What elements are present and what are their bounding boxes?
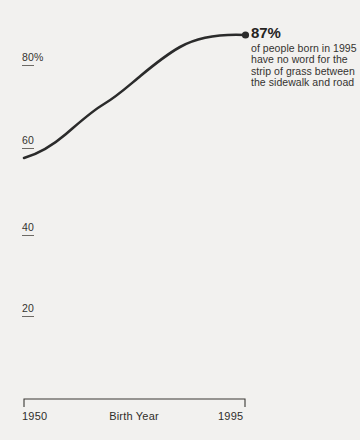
endpoint-dot — [242, 31, 249, 38]
y-axis-tick-20: 20 — [22, 303, 34, 317]
annotation-line-2: have no word for the — [251, 54, 359, 65]
x-axis-line — [24, 399, 245, 407]
y-axis-tick-40: 40 — [22, 222, 34, 236]
y-axis-tick-40-value: 40 — [22, 222, 34, 236]
annotation-callout: 87% of people born in 1995 have no word … — [251, 25, 359, 88]
chart-container: 80% 60 40 20 1950 Birth Year 1995 87% of… — [0, 0, 360, 440]
y-axis-tick-80-value: 80 — [22, 52, 34, 66]
y-axis-tick-60-value: 60 — [22, 135, 34, 149]
y-axis-tick-60: 60 — [22, 135, 34, 149]
y-axis-tick-20-value: 20 — [22, 303, 34, 317]
annotation-body: of people born in 1995 have no word for … — [251, 43, 359, 89]
series-line — [24, 35, 245, 158]
annotation-line-4: the sidewalk and road — [251, 77, 359, 88]
y-axis-tick-80: 80% — [22, 52, 44, 66]
annotation-value: 87% — [251, 25, 359, 41]
y-axis-tick-80-suffix: % — [34, 52, 44, 63]
x-axis-tick-end: 1995 — [218, 411, 243, 422]
